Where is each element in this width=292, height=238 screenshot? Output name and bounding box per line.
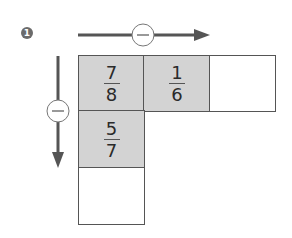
- denominator: 7: [106, 141, 117, 160]
- answer-cell-r3c1[interactable]: [78, 167, 145, 225]
- horizontal-arrow-icon: [78, 24, 210, 46]
- numerator: 5: [106, 119, 117, 138]
- vertical-arrow-icon: [47, 56, 69, 168]
- numerator: 7: [106, 63, 117, 82]
- fraction: 1 6: [169, 63, 185, 105]
- fraction: 7 8: [104, 63, 120, 105]
- answer-cell-r1c3[interactable]: [209, 55, 276, 112]
- operation-arrows: [0, 0, 292, 238]
- cell-r2c1: 5 7: [78, 110, 145, 169]
- denominator: 8: [106, 85, 117, 104]
- cell-r1c2: 1 6: [143, 55, 211, 112]
- denominator: 6: [171, 85, 182, 104]
- fraction: 5 7: [104, 119, 120, 161]
- cell-r1c1: 7 8: [78, 55, 145, 112]
- numerator: 1: [171, 63, 182, 82]
